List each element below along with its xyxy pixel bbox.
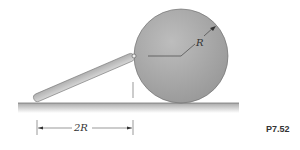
- pin: [132, 54, 136, 58]
- radius-label: R: [195, 37, 204, 48]
- distance-label: 2R: [73, 122, 88, 133]
- bar: [32, 52, 135, 102]
- ground: [18, 103, 239, 113]
- figure-number: P7.52: [266, 124, 290, 134]
- diagram-canvas: R 2R P7.52: [0, 0, 300, 150]
